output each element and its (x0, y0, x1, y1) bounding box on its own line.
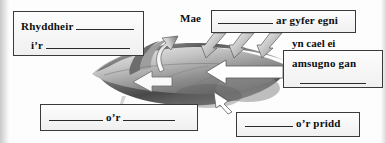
worksheet-diagram: Rhyddheir i’r Mae ar gyfer egni yn cael … (0, 0, 386, 143)
energy-blank[interactable] (218, 14, 273, 24)
label-yn-cael-ei: yn cael ei (292, 37, 335, 49)
energy-label: ar gyfer egni (276, 14, 338, 26)
absorb-line-1: amsugno gan (292, 55, 374, 72)
answer-box-water[interactable]: o’r (40, 104, 198, 131)
answer-box-release[interactable]: Rhyddheir i’r (13, 11, 144, 56)
label-mae: Mae (180, 12, 201, 24)
release-blank-2[interactable] (46, 39, 130, 49)
water-label: o’r (106, 111, 120, 123)
answer-box-absorb[interactable]: amsugno gan (283, 50, 383, 88)
answer-box-soil[interactable]: o’r pridd (236, 112, 360, 137)
release-line-2: i’r (21, 36, 136, 55)
release-label: Rhyddheir (21, 20, 73, 32)
soil-blank[interactable] (245, 117, 293, 127)
absorb-blank[interactable] (300, 74, 366, 84)
answer-box-energy[interactable]: ar gyfer egni (211, 10, 356, 33)
water-blank-left[interactable] (49, 111, 103, 121)
release-preposition: i’r (31, 39, 43, 51)
absorb-line-2 (292, 72, 374, 89)
water-blank-right[interactable] (123, 111, 175, 121)
release-line-1: Rhyddheir (21, 17, 136, 36)
release-blank-1[interactable] (76, 20, 134, 30)
soil-label: o’r pridd (296, 117, 341, 129)
water-arrow-left-icon (120, 96, 126, 104)
absorb-label: amsugno gan (292, 57, 356, 69)
